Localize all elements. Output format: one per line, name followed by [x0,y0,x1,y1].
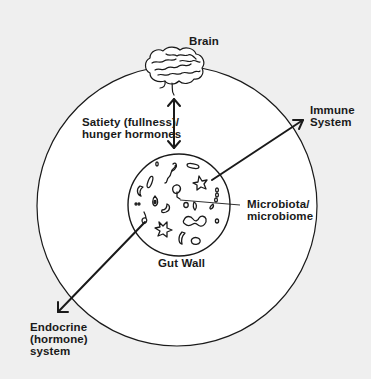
endocrine-label-line2: (hormone) [30,333,88,345]
satiety-label-line2: hunger hormones [82,128,181,140]
endocrine-label-line1: Endocrine [30,321,88,333]
microbiota-label-line2: microbiome [247,210,313,222]
diagram-canvas: Brain Satiety (fullness)/ hunger hormone… [0,0,371,379]
brain-label: Brain [189,35,219,47]
microbiota-label: Microbiota/ microbiome [247,198,313,222]
immune-system-label: Immune System [310,104,355,128]
satiety-hunger-label: Satiety (fullness)/ hunger hormones [82,116,181,140]
gut-wall-label: Gut Wall [158,257,205,269]
immune-label-line1: Immune [310,104,355,116]
satiety-label-line1: Satiety (fullness)/ [82,116,181,128]
endocrine-system-label: Endocrine (hormone) system [30,321,88,357]
endocrine-label-line3: system [30,345,88,357]
immune-label-line2: System [310,116,355,128]
microbiota-label-line1: Microbiota/ [247,198,313,210]
